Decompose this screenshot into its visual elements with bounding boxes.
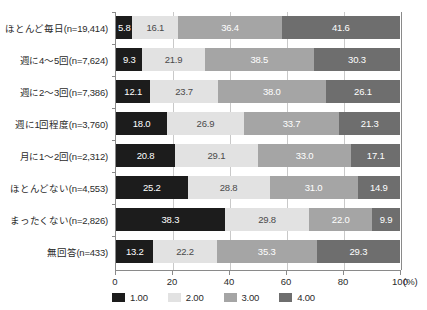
legend-item-4.00[interactable]: 4.00	[279, 292, 315, 303]
bar-segment-value: 38.5	[250, 55, 268, 65]
bar-segment-value: 12.1	[124, 87, 142, 97]
gridline-100	[401, 12, 402, 270]
x-axis-tick-40	[229, 271, 230, 275]
legend-swatch-icon	[168, 293, 181, 302]
bar-row: 20.829.133.017.1	[116, 144, 400, 167]
plot-area: 5.816.136.441.69.321.938.530.312.123.738…	[115, 12, 400, 270]
legend-label: 1.00	[130, 292, 148, 303]
chart-legend: 1.002.003.004.00	[0, 292, 427, 303]
y-axis-tick	[112, 140, 116, 141]
category-label: ほとんどない(n=4,553)	[10, 176, 108, 199]
bar-segment-value: 9.9	[380, 215, 393, 225]
bar-segment-2.00: 29.1	[175, 144, 258, 167]
bar-rows: 5.816.136.441.69.321.938.530.312.123.738…	[116, 12, 400, 270]
bar-segment-value: 28.8	[220, 183, 238, 193]
bar-segment-3.00: 38.0	[218, 80, 326, 103]
bar-segment-3.00: 38.5	[205, 48, 314, 71]
category-label: 無回答(n=433)	[47, 240, 108, 263]
bar-segment-value: 31.0	[305, 183, 323, 193]
legend-label: 3.00	[242, 292, 260, 303]
bar-segment-3.00: 22.0	[309, 208, 371, 231]
bar-segment-3.00: 35.3	[217, 240, 317, 263]
legend-item-3.00[interactable]: 3.00	[224, 292, 260, 303]
bar-segment-value: 17.1	[367, 151, 385, 161]
bar-row: 25.228.831.014.9	[116, 176, 400, 199]
category-label: 週に1回程度(n=3,760)	[15, 112, 108, 135]
bar-segment-1.00: 18.0	[116, 112, 167, 135]
bar-segment-value: 29.1	[208, 151, 226, 161]
x-axis-tick-label: 20	[167, 276, 178, 287]
bar-segment-3.00: 33.7	[244, 112, 340, 135]
category-label: 月に1〜2回(n=2,312)	[20, 144, 109, 167]
bar-segment-4.00: 29.3	[317, 240, 400, 263]
bar-segment-1.00: 38.3	[116, 208, 225, 231]
bar-segment-2.00: 23.7	[150, 80, 217, 103]
y-axis-tick	[112, 76, 116, 77]
x-axis-tick-20	[172, 271, 173, 275]
bar-segment-value: 29.3	[350, 247, 368, 257]
bar-segment-value: 16.1	[147, 23, 165, 33]
x-axis-tick-labels: 020406080100	[115, 276, 400, 290]
y-axis-tick	[112, 204, 116, 205]
bar-segment-value: 18.0	[133, 119, 151, 129]
category-axis-labels: ほとんど毎日(n=19,414)週に4〜5回(n=7,624)週に2〜3回(n=…	[0, 12, 112, 270]
bar-segment-2.00: 21.9	[142, 48, 204, 71]
bar-segment-value: 30.3	[348, 55, 366, 65]
bar-row: 9.321.938.530.3	[116, 48, 400, 71]
y-axis-tick	[112, 236, 116, 237]
legend-item-1.00[interactable]: 1.00	[112, 292, 148, 303]
bar-segment-3.00: 31.0	[270, 176, 358, 199]
bar-segment-value: 21.9	[165, 55, 183, 65]
bar-segment-1.00: 13.2	[116, 240, 153, 263]
bar-segment-value: 13.2	[126, 247, 144, 257]
legend-label: 4.00	[297, 292, 315, 303]
bar-segment-4.00: 17.1	[351, 144, 400, 167]
bar-segment-value: 33.0	[296, 151, 314, 161]
bar-segment-value: 14.9	[370, 183, 388, 193]
bar-segment-value: 38.0	[263, 87, 281, 97]
x-axis-tick-label: 40	[224, 276, 235, 287]
bar-segment-value: 26.9	[197, 119, 215, 129]
legend-swatch-icon	[279, 293, 292, 302]
y-axis-tick	[112, 172, 116, 173]
bar-segment-4.00: 30.3	[314, 48, 400, 71]
x-axis-unit-label: (%)	[403, 276, 418, 287]
bar-row: 38.329.822.09.9	[116, 208, 400, 231]
category-label: ほとんど毎日(n=19,414)	[5, 16, 108, 39]
legend-swatch-icon	[224, 293, 237, 302]
bar-segment-2.00: 28.8	[188, 176, 270, 199]
bar-row: 13.222.235.329.3	[116, 240, 400, 263]
bar-segment-3.00: 36.4	[178, 16, 281, 39]
bar-segment-2.00: 16.1	[132, 16, 178, 39]
category-label: まったくない(n=2,826)	[10, 208, 108, 231]
legend-item-2.00[interactable]: 2.00	[168, 292, 204, 303]
bar-segment-value: 33.7	[283, 119, 301, 129]
bar-segment-value: 22.0	[332, 215, 350, 225]
bar-segment-1.00: 12.1	[116, 80, 150, 103]
x-axis-tick-label: 80	[338, 276, 349, 287]
y-axis-tick	[112, 44, 116, 45]
bar-row: 5.816.136.441.6	[116, 16, 400, 39]
category-label: 週に2〜3回(n=7,386)	[20, 80, 109, 103]
bar-segment-value: 36.4	[221, 23, 239, 33]
bar-segment-4.00: 14.9	[358, 176, 400, 199]
stacked-bar-chart: ほとんど毎日(n=19,414)週に4〜5回(n=7,624)週に2〜3回(n=…	[0, 0, 427, 310]
bar-segment-2.00: 22.2	[153, 240, 216, 263]
bar-segment-1.00: 20.8	[116, 144, 175, 167]
bar-segment-1.00: 25.2	[116, 176, 188, 199]
bar-segment-value: 38.3	[162, 215, 180, 225]
bar-segment-1.00: 5.8	[116, 16, 132, 39]
bar-segment-value: 29.8	[258, 215, 276, 225]
bar-segment-4.00: 9.9	[372, 208, 400, 231]
bar-segment-4.00: 41.6	[282, 16, 400, 39]
bar-segment-value: 23.7	[175, 87, 193, 97]
x-axis-tick-0	[115, 271, 116, 275]
bar-row: 12.123.738.026.1	[116, 80, 400, 103]
y-axis-tick	[112, 108, 116, 109]
bar-segment-2.00: 26.9	[167, 112, 243, 135]
bar-segment-4.00: 21.3	[339, 112, 400, 135]
x-axis-tick-100	[400, 271, 401, 275]
category-label: 週に4〜5回(n=7,624)	[20, 48, 109, 71]
x-axis-tick-60	[286, 271, 287, 275]
x-axis-tick-label: 60	[281, 276, 292, 287]
